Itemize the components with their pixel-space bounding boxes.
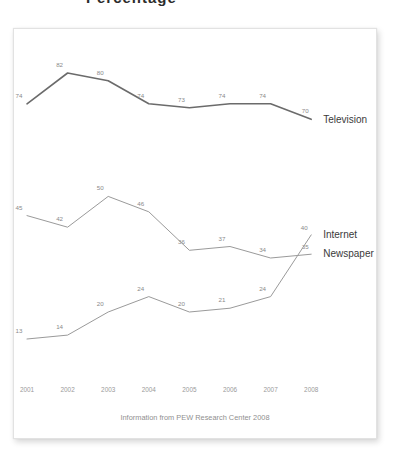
- value-label-internet-2008: 40: [301, 224, 308, 231]
- series-television: 7482807473747470Television: [16, 61, 368, 125]
- value-label-newspaper-2005: 36: [178, 238, 185, 245]
- x-tick-2007: 2007: [263, 386, 278, 393]
- value-label-internet-2007: 24: [259, 285, 266, 292]
- value-label-television-2006: 74: [219, 92, 226, 99]
- line-chart: 7482807473747470Television45425046363734…: [14, 29, 376, 438]
- value-label-internet-2002: 14: [56, 323, 63, 330]
- series-line-television: [27, 73, 311, 119]
- value-label-newspaper-2007: 34: [259, 246, 266, 253]
- value-label-television-2004: 74: [137, 92, 144, 99]
- value-label-television-2007: 74: [259, 92, 266, 99]
- series-line-newspaper: [27, 196, 311, 258]
- x-tick-2003: 2003: [101, 386, 116, 393]
- value-label-newspaper-2001: 45: [16, 204, 23, 211]
- value-label-television-2005: 73: [178, 96, 185, 103]
- value-label-television-2002: 82: [56, 61, 63, 68]
- series-label-internet: Internet: [323, 229, 357, 240]
- series-line-internet: [27, 235, 311, 339]
- cropped-title-text: Percentage: [86, 0, 177, 6]
- series-newspaper: 4542504636373435Newspaper: [16, 184, 375, 259]
- x-tick-2001: 2001: [20, 386, 35, 393]
- value-label-newspaper-2003: 50: [97, 184, 104, 191]
- series-label-newspaper: Newspaper: [323, 248, 374, 259]
- x-tick-2006: 2006: [223, 386, 238, 393]
- series-internet: 1314202420212440Internet: [16, 224, 358, 339]
- x-tick-2002: 2002: [60, 386, 75, 393]
- value-label-newspaper-2002: 42: [56, 215, 63, 222]
- cropped-page-title: Percentage: [0, 0, 394, 8]
- value-label-television-2001: 74: [16, 92, 23, 99]
- value-label-internet-2004: 24: [137, 285, 144, 292]
- value-label-television-2003: 80: [97, 69, 104, 76]
- chart-source-caption: Information from PEW Research Center 200…: [120, 413, 269, 422]
- value-label-internet-2003: 20: [97, 300, 104, 307]
- chart-screenshot: { "page": { "cropped_title_fragment": "P…: [0, 0, 394, 453]
- x-tick-2008: 2008: [304, 386, 319, 393]
- series-label-television: Television: [323, 114, 367, 125]
- x-axis-tick-labels: 20012002200320042005200620072008: [20, 386, 319, 393]
- value-label-internet-2005: 20: [178, 300, 185, 307]
- value-label-internet-2001: 13: [16, 327, 23, 334]
- x-tick-2005: 2005: [182, 386, 197, 393]
- value-label-internet-2006: 21: [219, 296, 226, 303]
- value-label-newspaper-2006: 37: [219, 235, 226, 242]
- x-tick-2004: 2004: [142, 386, 157, 393]
- value-label-television-2008: 70: [302, 107, 309, 114]
- value-label-newspaper-2004: 46: [137, 200, 144, 207]
- chart-card: 7482807473747470Television45425046363734…: [13, 28, 377, 439]
